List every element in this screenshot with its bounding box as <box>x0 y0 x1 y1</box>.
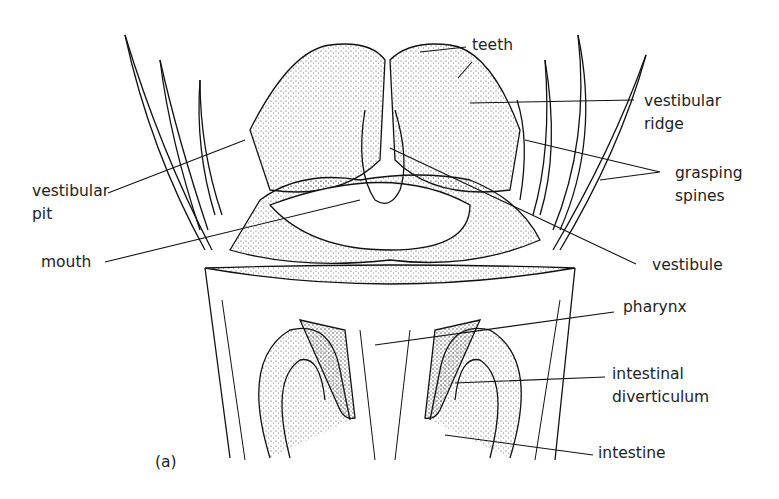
label-line: spines <box>675 186 743 206</box>
label-line: vestibular <box>644 91 721 111</box>
label-teeth: teeth <box>472 35 513 55</box>
label-line: vestibular <box>32 181 109 201</box>
label-line: grasping <box>675 163 743 183</box>
panel-label: (a) <box>155 452 177 472</box>
label-intestine: intestine <box>598 443 666 463</box>
head-left-lobe <box>250 44 385 192</box>
label-line: ridge <box>644 114 721 134</box>
label-grasping-spines: grasping spines <box>675 163 743 206</box>
anatomical-illustration <box>0 0 779 499</box>
label-line: intestinal <box>612 364 709 384</box>
label-mouth: mouth <box>41 252 91 272</box>
head-right-lobe <box>390 44 520 192</box>
label-intestinal-diverticulum: intestinal diverticulum <box>612 364 709 407</box>
label-pharynx: pharynx <box>623 297 687 317</box>
label-line: pit <box>32 204 109 224</box>
label-vestibular-ridge: vestibular ridge <box>644 91 721 134</box>
body-outline <box>205 268 575 460</box>
label-line: diverticulum <box>612 387 709 407</box>
label-vestibule: vestibule <box>652 255 723 275</box>
label-vestibular-pit: vestibular pit <box>32 181 109 224</box>
